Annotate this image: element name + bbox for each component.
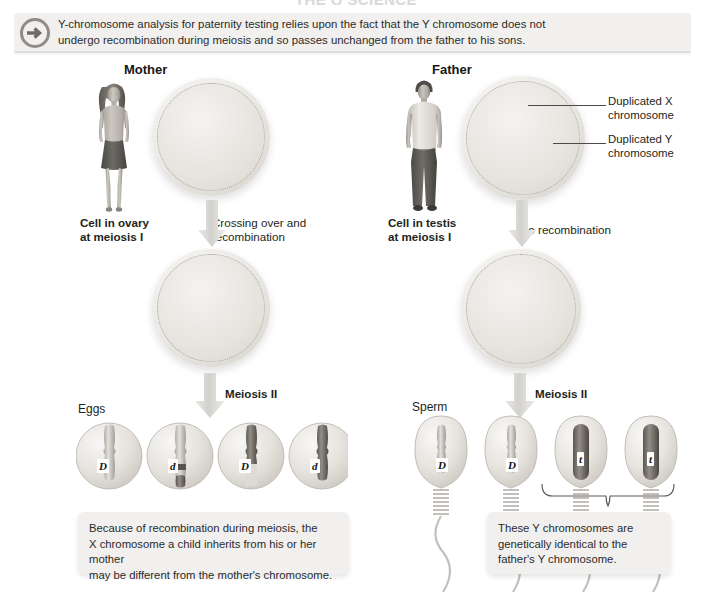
leader-line-duplicated-y bbox=[553, 143, 606, 144]
leader-line-duplicated-x bbox=[528, 105, 606, 106]
man-standing-figure bbox=[392, 74, 456, 214]
allele-tag: t bbox=[524, 311, 531, 325]
allele-tag: t bbox=[527, 142, 534, 156]
label-line-1: Cell in testis bbox=[388, 216, 456, 229]
allele-tag-egg-2: d bbox=[168, 459, 178, 473]
cell-father-meiosis-1: D D t t bbox=[461, 76, 585, 200]
chromosome-pair-mother-crossing-over bbox=[152, 78, 270, 196]
banner-line-1: Y-chromosome analysis for paternity test… bbox=[58, 18, 545, 30]
arrow-down-mother-meiosis-2 bbox=[193, 373, 227, 419]
label-meiosis-II-father: Meiosis II bbox=[535, 387, 587, 401]
header-banner-text: Y-chromosome analysis for paternity test… bbox=[58, 16, 678, 48]
allele-tag: D bbox=[481, 160, 493, 174]
banner-line-2: undergo recombination during meiosis and… bbox=[58, 32, 678, 48]
allele-tag-sperm-4: t bbox=[647, 452, 654, 466]
allele-tag-egg-3: D bbox=[239, 459, 251, 473]
caption-line-2: X chromosome a child inherits from his o… bbox=[89, 537, 338, 568]
allele-tag-sperm-3: t bbox=[577, 452, 584, 466]
allele-tag: D bbox=[502, 329, 514, 343]
allele-tag: t bbox=[545, 142, 552, 156]
label-cell-in-ovary: Cell in ovary at meiosis I bbox=[80, 216, 149, 244]
allele-tag-sperm-2: D bbox=[506, 458, 518, 472]
egg-row bbox=[76, 414, 348, 498]
caption-line-3: father's Y chromosome. bbox=[498, 552, 660, 568]
column-heading-mother: Mother bbox=[124, 62, 167, 77]
arrow-down-mother-stage1 bbox=[196, 200, 228, 248]
allele-tag: D bbox=[210, 327, 222, 341]
allele-tag-egg-4: d bbox=[310, 459, 320, 473]
label-line-2: at meiosis I bbox=[80, 230, 143, 243]
arrow-circle-right-icon bbox=[20, 18, 50, 48]
allele-tag: d bbox=[196, 152, 206, 166]
cell-father-after-no-recombination: D D t t bbox=[461, 249, 581, 369]
caption-mother-recombination: Because of recombination during meiosis,… bbox=[78, 512, 349, 574]
label-meiosis-II-mother: Meiosis II bbox=[225, 387, 277, 401]
label-line-1: Cell in ovary bbox=[80, 216, 149, 229]
allele-tag: D bbox=[209, 152, 221, 166]
allele-tag: D bbox=[481, 329, 493, 343]
allele-tag: d bbox=[229, 327, 239, 341]
allele-tag: d bbox=[232, 157, 242, 171]
caption-line-1: Because of recombination during meiosis,… bbox=[89, 521, 338, 537]
caption-father-y-identical: These Y chromosomes are genetically iden… bbox=[487, 512, 671, 574]
caption-line-3: may be different from the mother's chrom… bbox=[89, 568, 338, 584]
header-banner-shadow bbox=[14, 51, 691, 56]
chromosome-set-father-x-and-y bbox=[461, 76, 585, 200]
allele-tag: D bbox=[504, 160, 516, 174]
label-cell-in-testis: Cell in testis at meiosis I bbox=[388, 216, 456, 244]
allele-tag: t bbox=[542, 311, 549, 325]
sperm-grouping-bracket bbox=[540, 482, 676, 510]
callout-duplicated-x-chromosome: Duplicated X chromosome bbox=[608, 95, 703, 122]
page-title-sliver: THE Q SCIENCE bbox=[196, 0, 516, 5]
chromosome-pair-mother-recombined bbox=[152, 249, 270, 367]
cell-mother-after-recombination: D d D d bbox=[152, 249, 270, 367]
figure-panel: THE Q SCIENCE Y-chromosome analysis for … bbox=[0, 0, 705, 600]
label-line-2: at meiosis I bbox=[388, 230, 451, 243]
cell-mother-meiosis-1: D d D d bbox=[152, 78, 270, 196]
callout-duplicated-y-chromosome: Duplicated Y chromosome bbox=[608, 133, 703, 160]
allele-tag-egg-1: D bbox=[97, 459, 109, 473]
chromosome-set-father-unchanged bbox=[461, 249, 581, 369]
arrow-down-father-stage1 bbox=[506, 200, 538, 248]
allele-tag: D bbox=[176, 156, 188, 170]
allele-tag-sperm-1: D bbox=[436, 458, 448, 472]
allele-tag: D bbox=[175, 327, 187, 341]
caption-line-1: These Y chromosomes are bbox=[498, 521, 660, 537]
allele-tag: d bbox=[194, 327, 204, 341]
caption-line-2: genetically identical to the bbox=[498, 537, 660, 553]
woman-standing-figure bbox=[83, 78, 145, 213]
